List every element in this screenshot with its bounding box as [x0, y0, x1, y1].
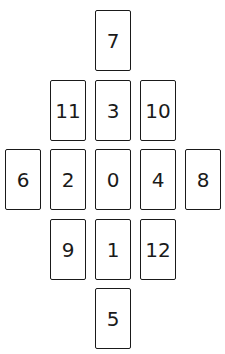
card-position-12: 12 — [140, 219, 176, 280]
card-position-6: 6 — [5, 149, 41, 210]
card-position-9: 9 — [50, 219, 86, 280]
card-position-10: 10 — [140, 80, 176, 141]
card-position-4: 4 — [140, 149, 176, 210]
card-position-11: 11 — [50, 80, 86, 141]
card-position-0: 0 — [95, 149, 131, 210]
card-position-1: 1 — [95, 219, 131, 280]
card-position-7: 7 — [95, 10, 131, 71]
card-position-8: 8 — [185, 149, 221, 210]
card-position-2: 2 — [50, 149, 86, 210]
card-position-5: 5 — [95, 288, 131, 349]
card-position-3: 3 — [95, 80, 131, 141]
